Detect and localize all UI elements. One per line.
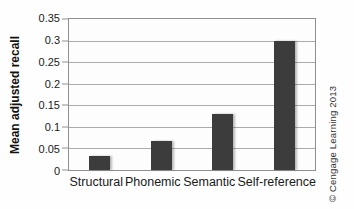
y-tick-label: 0.2 <box>45 78 60 90</box>
y-tick-label: 0 <box>54 165 60 177</box>
y-axis-tick <box>62 148 68 149</box>
bar-cell-structural <box>69 19 131 170</box>
bar-structural <box>89 156 110 170</box>
y-axis-tick <box>62 62 68 63</box>
y-tick-label: 0.1 <box>45 121 60 133</box>
y-tick-label: 0.3 <box>45 34 60 46</box>
x-label-cell: Self-reference <box>238 175 317 189</box>
x-axis-labels: StructuralPhonemicSemanticSelf-reference <box>68 175 316 189</box>
x-label-cell: Phonemic <box>125 175 182 189</box>
y-axis-tick <box>62 83 68 84</box>
y-axis-tick <box>62 126 68 127</box>
bar-cell-semantic <box>192 19 254 170</box>
y-axis-tick-labels: 0.350.30.250.20.150.10.050 <box>0 18 60 171</box>
y-axis-tick <box>62 19 68 20</box>
bar-cell-phonemic <box>131 19 193 170</box>
bar-chart-figure: Mean adjusted recall 0.350.30.250.20.150… <box>0 0 354 209</box>
x-axis-label-phonemic: Phonemic <box>125 175 181 189</box>
y-tick-label: 0.35 <box>39 12 60 24</box>
x-axis-label-self-reference: Self-reference <box>238 175 317 189</box>
bars-layer <box>69 19 315 170</box>
y-tick-label: 0.15 <box>39 99 60 111</box>
y-axis-tick <box>62 105 68 106</box>
bar-cell-self-reference <box>254 19 316 170</box>
y-tick-label: 0.05 <box>39 143 60 155</box>
bar-semantic <box>212 114 233 170</box>
bar-phonemic <box>151 141 172 170</box>
plot-area <box>68 18 316 171</box>
y-axis-tick <box>62 40 68 41</box>
copyright-credit: © Cengage Learning 2013 <box>327 70 338 202</box>
x-axis-label-semantic: Semantic <box>183 175 235 189</box>
bar-self-reference <box>274 41 295 170</box>
x-label-cell: Semantic <box>181 175 238 189</box>
x-axis-label-structural: Structural <box>70 175 124 189</box>
y-axis-tick <box>62 170 68 171</box>
x-label-cell: Structural <box>68 175 125 189</box>
y-tick-label: 0.25 <box>39 56 60 68</box>
